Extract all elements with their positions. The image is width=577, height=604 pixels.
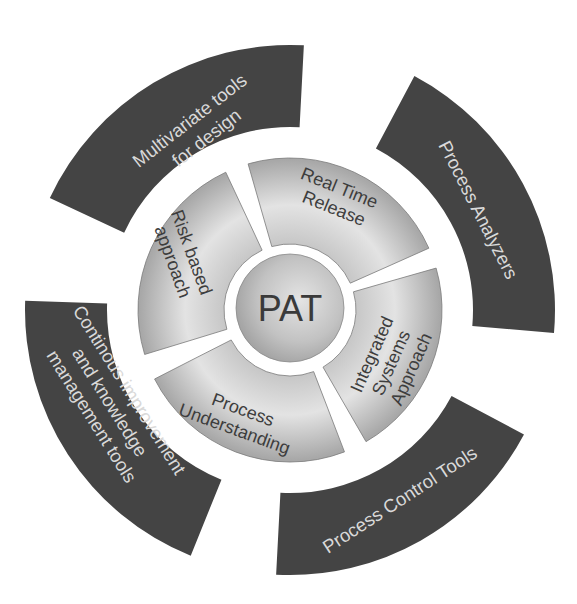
inner-segment-process-understanding: Process Understanding (155, 340, 345, 462)
center-hub: PAT (236, 254, 344, 362)
pat-diagram: Multivariate tools for design Process An… (0, 0, 577, 604)
center-label: PAT (258, 288, 323, 329)
